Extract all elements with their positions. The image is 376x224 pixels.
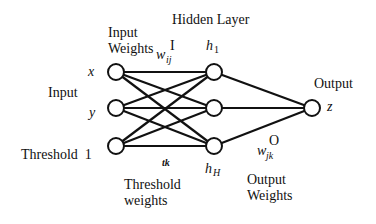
input-node-y [108,100,124,116]
hidden-layer-title: Hidden Layer [172,12,250,27]
hidden-node-h1-label: h [206,38,213,53]
input-node-x [108,64,124,80]
hidden-node-h1-subscript: 1 [214,44,219,55]
threshold-weights-label-line2: weights [124,193,168,208]
hidden-node-h2 [206,100,222,116]
edge-h1-z [214,72,312,108]
hidden-node-h1 [206,64,222,80]
threshold-weights-label-line1: Threshold [124,177,181,192]
hidden-node-hH-subscript: H [212,167,221,178]
input-weight-symbol: w [156,47,166,62]
output-weights-label-line1: Output [247,172,286,187]
output-node-z-label: z [326,99,333,114]
hidden-node-hH-label: h [205,161,212,176]
threshold-weight-symbol: tk [162,157,170,168]
output-weight-subscript: jk [264,150,274,161]
edge-hH-z [214,108,312,146]
output-node-z [304,100,320,116]
input-label: Input [48,85,78,100]
output-weights-label-line2: Weights [247,188,293,203]
output-label: Output [314,76,353,91]
hidden-node-hH [206,138,222,154]
output-weight-superscript: O [269,133,279,148]
input-weights-label-line2: Weights [108,41,154,56]
input-weight-superscript: I [170,38,175,53]
input-node-threshold [108,138,124,154]
neural-network-diagram: Hidden Layer Input Weights w ij I h 1 h … [0,0,376,224]
input-weight-subscript: ij [166,54,172,65]
input-weights-label-line1: Input [108,25,138,40]
threshold-label: Threshold 1 [21,147,92,162]
input-node-y-label: y [87,105,96,120]
input-node-x-label: x [87,64,95,79]
